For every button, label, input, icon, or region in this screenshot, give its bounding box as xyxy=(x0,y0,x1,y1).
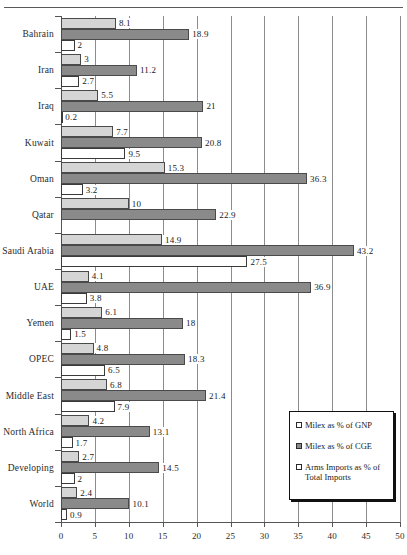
bar-value-label: 11.2 xyxy=(138,65,157,75)
bar-value-label: 10.1 xyxy=(130,499,150,509)
category-label-bahrain: Bahrain xyxy=(23,29,54,39)
category-label-uae: UAE xyxy=(34,282,54,292)
bar xyxy=(61,293,87,304)
x-axis-tick-label: 5 xyxy=(93,531,98,541)
bar-value-label: 0.2 xyxy=(63,112,78,122)
category-label-kuwait: Kuwait xyxy=(25,138,54,148)
bar-value-label: 2 xyxy=(76,40,84,50)
bar xyxy=(61,365,105,376)
bar-value-label: 20.8 xyxy=(203,138,223,148)
bar xyxy=(61,271,89,282)
top-divider-rule xyxy=(4,7,403,8)
bar xyxy=(61,401,115,412)
bar-value-label: 22.9 xyxy=(217,210,237,220)
x-axis-tick xyxy=(129,522,130,527)
bar-value-label: 6.5 xyxy=(106,365,121,375)
bar xyxy=(61,137,202,148)
bar-value-label: 1.7 xyxy=(74,438,89,448)
x-axis-tick xyxy=(366,522,367,527)
gridline xyxy=(400,16,401,522)
bar-value-label: 14.5 xyxy=(160,463,180,473)
bar-value-label: 27.5 xyxy=(248,257,268,267)
bar-value-label: 36.3 xyxy=(308,174,328,184)
bar-value-label: 13.1 xyxy=(151,427,171,437)
chart-page: 05101520253035404550 BahrainIranIraqKuwa… xyxy=(0,0,407,555)
bar xyxy=(61,437,73,448)
legend-label: Arms Imports as % of Total Imports xyxy=(305,462,388,482)
bar xyxy=(61,256,247,267)
bar xyxy=(61,40,75,51)
bar-value-label: 21 xyxy=(204,101,216,111)
gridline xyxy=(129,16,130,522)
gridline xyxy=(197,16,198,522)
bar xyxy=(61,184,83,195)
category-axis-tick xyxy=(55,522,61,523)
bar xyxy=(61,509,67,520)
bar-value-label: 0.9 xyxy=(68,510,83,520)
category-label-iran: Iran xyxy=(38,65,54,75)
bar-value-label: 14.9 xyxy=(163,235,183,245)
x-axis-tick xyxy=(197,522,198,527)
bar xyxy=(61,126,113,137)
x-axis-tick-label: 45 xyxy=(361,531,370,541)
bar-value-label: 10 xyxy=(130,199,142,209)
bar-value-label: 5.5 xyxy=(99,90,114,100)
x-axis-tick xyxy=(163,522,164,527)
legend-swatch-open-square-icon xyxy=(296,464,302,470)
bar-value-label: 3.8 xyxy=(88,293,103,303)
category-label-opec: OPEC xyxy=(29,354,54,364)
x-axis-tick-label: 40 xyxy=(327,531,336,541)
bar-value-label: 6.1 xyxy=(103,307,118,317)
bar-value-label: 1.5 xyxy=(72,329,87,339)
x-axis-tick-label: 15 xyxy=(158,531,167,541)
bar xyxy=(61,198,129,209)
bar-value-label: 15.3 xyxy=(166,163,186,173)
bar xyxy=(61,54,81,65)
x-axis-tick-label: 20 xyxy=(192,531,201,541)
bar xyxy=(61,307,102,318)
category-label-middle-east: Middle East xyxy=(6,391,54,401)
bar-value-label: 3 xyxy=(82,54,90,64)
bar xyxy=(61,379,107,390)
gridline xyxy=(264,16,265,522)
bar-value-label: 6.8 xyxy=(108,380,123,390)
legend-item-arms-imports: Arms Imports as % of Total Imports xyxy=(296,462,388,482)
bar xyxy=(61,234,162,245)
category-label-saudi-arabia: Saudi Arabia xyxy=(2,246,54,256)
bar xyxy=(61,173,307,184)
x-axis-tick xyxy=(332,522,333,527)
x-axis-tick-label: 35 xyxy=(294,531,303,541)
gridline xyxy=(163,16,164,522)
x-axis-tick xyxy=(264,522,265,527)
bar xyxy=(61,451,79,462)
bar-value-label: 9.5 xyxy=(126,149,141,159)
bar xyxy=(61,101,203,112)
legend-label: Milex as % of CGE xyxy=(305,441,372,451)
x-axis-tick xyxy=(298,522,299,527)
bar-value-label: 3.2 xyxy=(84,185,99,195)
category-label-developing: Developing xyxy=(8,463,54,473)
bar xyxy=(61,282,311,293)
legend-swatch-open-square-icon xyxy=(296,422,302,428)
bar xyxy=(61,343,94,354)
bar-value-label: 2.7 xyxy=(80,452,95,462)
category-label-oman: Oman xyxy=(30,174,54,184)
category-label-yemen: Yemen xyxy=(27,318,54,328)
bar xyxy=(61,245,354,256)
bar-value-label: 43.2 xyxy=(355,246,375,256)
bar xyxy=(61,76,79,87)
x-axis-tick-label: 0 xyxy=(59,531,64,541)
bar xyxy=(61,90,98,101)
bar xyxy=(61,462,159,473)
category-label-qatar: Qatar xyxy=(32,210,54,220)
bar xyxy=(61,415,89,426)
legend-label: Milex as % of GNP xyxy=(305,420,372,430)
bar-value-label: 21.4 xyxy=(207,391,227,401)
bar xyxy=(61,498,129,509)
bar xyxy=(61,148,125,159)
bar xyxy=(61,354,185,365)
bar xyxy=(61,29,189,40)
x-axis-tick xyxy=(61,522,62,527)
bar xyxy=(61,209,216,220)
bar xyxy=(61,318,183,329)
